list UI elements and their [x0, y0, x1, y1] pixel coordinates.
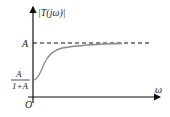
tick-label-fraction-numerator: A [15, 69, 22, 79]
y-axis-label: |T(jω)| [38, 7, 66, 19]
frequency-response-chart: |T(jω)| ω O A A 1+A [0, 0, 170, 117]
origin-label: O [25, 99, 32, 110]
x-axis-label: ω [155, 84, 162, 95]
tick-label-A: A [21, 38, 29, 49]
tick-label-fraction-denominator: 1+A [12, 81, 29, 91]
response-curve [34, 44, 122, 81]
